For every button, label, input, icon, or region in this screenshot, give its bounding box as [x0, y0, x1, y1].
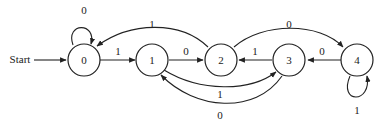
- state-label-1: 1: [149, 54, 155, 66]
- state-label-0: 0: [81, 54, 87, 66]
- edge-label-3-1: 0: [217, 109, 223, 121]
- edge-label-1-3: 1: [217, 88, 223, 100]
- edge-label-0-0: 0: [81, 4, 87, 16]
- edge-label-4-3: 0: [319, 45, 325, 57]
- edge-label-1-2: 0: [183, 45, 189, 57]
- state-2: 2: [205, 44, 237, 76]
- state-1: 1: [136, 44, 168, 76]
- edge-label-2-0: 1: [149, 18, 155, 30]
- edge-label-4-4: 1: [354, 104, 360, 116]
- state-0: 0: [68, 44, 100, 76]
- state-label-3: 3: [286, 54, 292, 66]
- start-label: Start: [10, 53, 31, 65]
- state-label-2: 2: [218, 54, 224, 66]
- state-4: 4: [341, 44, 373, 76]
- edge-label-3-2: 1: [252, 45, 258, 57]
- edge-0-0: [72, 28, 92, 45]
- edge-4-4: [347, 76, 367, 97]
- state-3: 3: [273, 44, 305, 76]
- state-diagram: Start 0 1 0 1 0 1 1 0 0 1 0 1 2 3: [0, 0, 375, 125]
- edge-label-0-1: 1: [115, 45, 121, 57]
- state-label-4: 4: [354, 54, 360, 66]
- edge-label-2-4: 0: [286, 18, 292, 30]
